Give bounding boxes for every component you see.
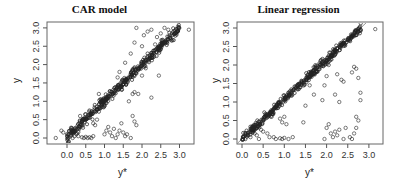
svg-text:3.0: 3.0 (363, 150, 376, 160)
svg-text:0.5: 0.5 (257, 150, 270, 160)
svg-text:1.5: 1.5 (221, 77, 231, 90)
svg-text:3.0: 3.0 (173, 150, 186, 160)
svg-text:2.0: 2.0 (320, 150, 333, 160)
y-axis-label-left: y (11, 78, 22, 83)
svg-text:2.0: 2.0 (136, 150, 149, 160)
svg-text:2.0: 2.0 (221, 59, 231, 72)
svg-text:1.0: 1.0 (98, 150, 111, 160)
svg-text:1.5: 1.5 (299, 150, 312, 160)
car-model-scatter-plot: 0.00.51.01.52.02.53.00.00.51.01.52.02.53… (0, 0, 199, 186)
linear-regression-scatter-plot: 0.00.51.01.52.02.53.00.00.51.01.52.02.53… (199, 0, 398, 186)
svg-text:3.0: 3.0 (31, 22, 41, 35)
svg-text:0.5: 0.5 (79, 150, 92, 160)
svg-text:2.5: 2.5 (31, 40, 41, 53)
svg-text:2.5: 2.5 (341, 150, 354, 160)
svg-text:0.5: 0.5 (31, 113, 41, 126)
svg-text:0.0: 0.0 (221, 133, 231, 146)
svg-text:2.0: 2.0 (31, 58, 41, 71)
svg-text:2.5: 2.5 (221, 40, 231, 53)
svg-text:0.0: 0.0 (61, 150, 74, 160)
linear-regression-panel: Linear regression 0.00.51.01.52.02.53.00… (199, 0, 398, 186)
y-axis-label-right: y (210, 78, 221, 83)
svg-text:2.5: 2.5 (154, 150, 167, 160)
x-axis-label-left: y* (118, 167, 127, 178)
svg-text:1.5: 1.5 (117, 150, 130, 160)
svg-text:0.5: 0.5 (221, 114, 231, 127)
svg-text:0.0: 0.0 (31, 132, 41, 145)
svg-text:3.0: 3.0 (221, 22, 231, 35)
svg-text:1.5: 1.5 (31, 77, 41, 90)
x-axis-label-right: y* (305, 167, 314, 178)
svg-text:1.0: 1.0 (221, 96, 231, 109)
svg-text:1.0: 1.0 (31, 95, 41, 108)
svg-text:0.0: 0.0 (236, 150, 249, 160)
svg-text:1.0: 1.0 (278, 150, 291, 160)
car-model-panel: CAR model 0.00.51.01.52.02.53.00.00.51.0… (0, 0, 199, 186)
